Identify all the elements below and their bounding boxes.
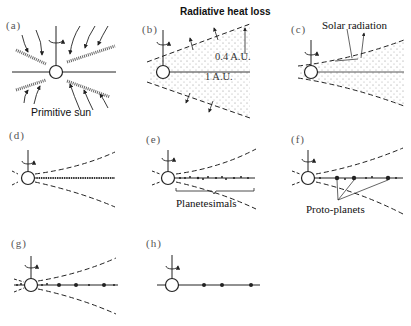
panel-g [14,256,118,314]
panel-d [12,150,115,207]
panel-b [147,24,250,118]
panel-label-h: (h) [146,237,162,249]
panel-h [157,255,260,292]
panel-label-d: (d) [9,129,25,141]
panel-label-c: (c) [291,23,306,35]
panel-label-a: (a) [6,19,21,31]
caption-primitive-sun: Primitive sun [31,106,91,118]
proto-planets-pointers [337,180,388,200]
sun-icon [162,172,175,185]
panel-label-b: (b) [142,23,158,35]
sun-icon [22,172,35,185]
sun-icon [50,66,63,79]
panel-label-g: (g) [11,237,27,249]
sun-icon [302,172,315,185]
sun-icon [166,279,179,292]
caption-planetesimals: Planetesimals [176,197,237,209]
sun-icon [157,66,170,79]
sun-icon [305,66,318,79]
panel-a [12,26,116,110]
panel-label-f: (f) [291,133,305,145]
panel-label-e: (e) [146,133,161,145]
planetesimals-bracket [176,188,254,194]
annotation-1-au: 1 A.U. [205,71,233,82]
sun-icon [25,279,38,292]
infall-arrows [22,26,108,110]
annotation-0-4-au: 0.4 A.U. [215,51,251,62]
panel-c [298,29,404,106]
caption-radiative-heat-loss: Radiative heat loss [180,6,271,17]
solar-system-formation-diagram [0,0,411,326]
hatch-band [67,46,115,62]
caption-solar-radiation: Solar radiation [322,19,387,31]
caption-proto-planets: Proto-planets [306,203,365,215]
hatch-band [16,80,46,90]
